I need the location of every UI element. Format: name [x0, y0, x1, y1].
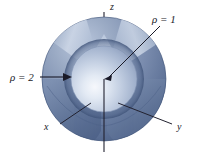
label-rho-equals-1: ρ = 1 — [152, 14, 176, 25]
label-rho-equals-2: ρ = 2 — [10, 72, 34, 83]
axis-label-z: z — [110, 2, 114, 12]
figure-container: ρ = 1 ρ = 2 z x y — [0, 0, 209, 157]
axis-label-x: x — [44, 122, 48, 132]
axis-label-y: y — [177, 122, 181, 132]
